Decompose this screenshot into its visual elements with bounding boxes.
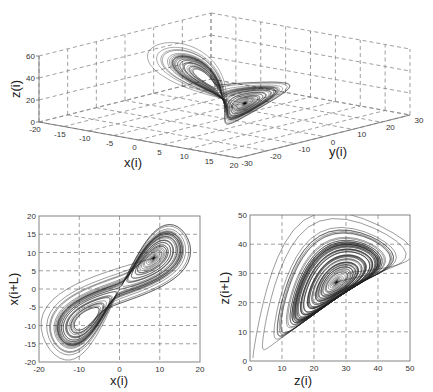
- tick-label: 20: [386, 123, 395, 132]
- tick-label: 15: [205, 157, 214, 166]
- tick-label: 0: [132, 143, 137, 152]
- plot-3d-attractor: -20-15-10-505101520-30-20-10010203002040…: [8, 13, 424, 170]
- tick-label: 40: [238, 240, 247, 249]
- plot-z-trajectory: [253, 212, 413, 358]
- tick-label: 10: [27, 249, 36, 258]
- plot-x-ylabel: x(i+L): [6, 273, 21, 306]
- tick-label: 50: [238, 211, 247, 220]
- tick-label: 0: [31, 118, 36, 127]
- plot-z-xlabel: z(i): [294, 373, 312, 388]
- plot-3d-ylabel: y(i): [329, 144, 347, 159]
- figure: -20-15-10-505101520-30-20-10010203002040…: [0, 0, 433, 392]
- plot-z-phase-portrait: 0102030405001020304050 z(i+L) z(i): [217, 211, 415, 388]
- tick-label: -5: [106, 139, 114, 148]
- tick-label: -5: [29, 303, 37, 312]
- plot-3d-zlabel: z(i): [8, 80, 23, 98]
- tick-label: 10: [238, 328, 247, 337]
- tick-label: 5: [32, 267, 37, 276]
- tick-label: 20: [26, 96, 35, 105]
- tick-label: 10: [357, 130, 366, 139]
- tick-label: -10: [79, 134, 91, 143]
- tick-label: 30: [342, 364, 351, 373]
- tick-label: -15: [24, 340, 36, 349]
- tick-label: -20: [24, 358, 36, 367]
- tick-label: 0: [32, 285, 37, 294]
- tick-label: 60: [26, 52, 35, 61]
- tick-label: 0: [248, 364, 253, 373]
- tick-label: -10: [73, 365, 85, 374]
- tick-label: 20: [230, 161, 239, 170]
- tick-label: -20: [270, 152, 282, 161]
- tick-label: 20: [196, 365, 205, 374]
- tick-label: 15: [27, 230, 36, 239]
- tick-label: 50: [406, 364, 415, 373]
- plot-x-ticks: -20-1001020-20-15-10-505101520: [24, 212, 205, 374]
- tick-label: 20: [310, 364, 319, 373]
- tick-label: -30: [241, 159, 253, 168]
- plot-3d-grid: [39, 13, 410, 158]
- plot-x-xlabel: x(i): [110, 373, 128, 388]
- tick-label: 40: [374, 364, 383, 373]
- tick-label: -10: [24, 322, 36, 331]
- tick-label: 10: [180, 152, 189, 161]
- tick-label: 30: [415, 116, 424, 125]
- tick-label: 5: [157, 148, 162, 157]
- tick-label: 0: [243, 357, 248, 366]
- plot-3d-xlabel: x(i): [124, 155, 142, 170]
- plot-z-ylabel: z(i+L): [217, 272, 232, 305]
- tick-label: 30: [238, 269, 247, 278]
- tick-label: 10: [278, 364, 287, 373]
- tick-label: -15: [54, 130, 66, 139]
- tick-label: 20: [238, 299, 247, 308]
- plot-3d-trajectory: [148, 43, 290, 125]
- tick-label: 20: [27, 212, 36, 221]
- tick-label: 10: [155, 365, 164, 374]
- plot-x-trajectory: [41, 225, 191, 361]
- plot-x-phase-portrait: -20-1001020-20-15-10-505101520 x(i+L) x(…: [6, 212, 205, 388]
- tick-label: 40: [26, 74, 35, 83]
- tick-label: -10: [299, 145, 311, 154]
